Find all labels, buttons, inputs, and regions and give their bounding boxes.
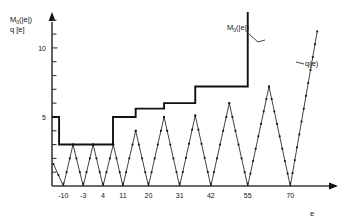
data-point-marker <box>194 115 196 117</box>
x-axis-arrow <box>329 183 338 190</box>
series-q-triangular-wave <box>53 31 317 186</box>
data-point-marker <box>257 135 259 137</box>
data-point-marker <box>307 82 309 84</box>
data-point-marker <box>116 157 118 159</box>
curve-label-m0: M0(|e|) <box>227 23 250 33</box>
x-tick-label: 55 <box>244 192 252 199</box>
data-point-marker <box>109 157 111 159</box>
data-point-marker <box>53 163 55 165</box>
data-point-marker <box>69 157 71 159</box>
data-point-marker <box>281 148 283 150</box>
data-point-marker <box>292 172 294 174</box>
data-point-marker <box>268 86 270 88</box>
data-point-marker <box>160 130 162 132</box>
data-point-marker <box>132 144 134 146</box>
x-tick-label: 42 <box>207 192 215 199</box>
data-point-marker <box>273 111 275 113</box>
data-point-marker <box>244 171 246 173</box>
data-point-marker <box>166 130 168 132</box>
data-point-marker <box>201 143 203 145</box>
data-point-marker <box>66 171 68 173</box>
x-tick-label: 70 <box>286 192 294 199</box>
data-point-marker <box>310 69 312 71</box>
chart-svg: 510-10-34112031425570M0(|e|)q [e]eM0(|e|… <box>0 0 344 224</box>
data-point-marker <box>314 43 316 45</box>
data-point-marker <box>231 116 233 118</box>
data-point-marker <box>276 123 278 125</box>
data-point-marker <box>182 171 184 173</box>
data-point-marker <box>284 160 286 162</box>
data-point-marker <box>176 171 178 173</box>
data-point-marker <box>296 146 298 148</box>
data-point-marker <box>151 171 153 173</box>
y-tick-label: 10 <box>38 45 46 52</box>
y-axis-label-line2: q [e] <box>10 25 25 34</box>
y-tick-label: 5 <box>42 114 46 121</box>
data-point-marker <box>222 130 224 132</box>
data-point-marker <box>228 102 230 104</box>
curve-label-m0-leader <box>249 34 265 42</box>
data-point-marker <box>57 174 59 176</box>
data-point-marker <box>238 144 240 146</box>
data-point-marker <box>99 171 101 173</box>
data-point-marker <box>141 157 143 159</box>
data-point-marker <box>144 171 146 173</box>
data-point-marker <box>204 157 206 159</box>
data-point-marker <box>135 130 137 132</box>
x-tick-label: 31 <box>176 192 184 199</box>
data-point-marker <box>128 157 130 159</box>
data-point-marker <box>225 116 227 118</box>
data-point-marker <box>298 134 300 136</box>
data-point-marker <box>72 144 74 146</box>
data-point-marker <box>125 171 127 173</box>
data-point-marker <box>255 148 257 150</box>
x-axis-label: e <box>310 209 314 218</box>
data-point-marker <box>89 157 91 159</box>
data-point-marker <box>163 116 165 118</box>
data-point-marker <box>312 56 314 58</box>
data-point-marker <box>213 171 215 173</box>
data-point-marker <box>188 143 190 145</box>
data-point-marker <box>249 173 251 175</box>
data-point-marker <box>235 130 237 132</box>
data-point-marker <box>271 98 273 100</box>
data-point-marker <box>287 173 289 175</box>
data-point-marker <box>216 157 218 159</box>
data-point-marker <box>92 144 94 146</box>
x-tick-label: -3 <box>80 192 86 199</box>
data-point-marker <box>316 30 318 32</box>
curve-label-q: q(e) <box>305 59 319 68</box>
data-point-marker <box>112 144 114 146</box>
figure-canvas: 510-10-34112031425570M0(|e|)q [e]eM0(|e|… <box>0 0 344 224</box>
curve-label-q-leader <box>296 62 304 64</box>
data-point-marker <box>241 157 243 159</box>
x-tick-label: 20 <box>145 192 153 199</box>
x-tick-label: 11 <box>119 192 126 199</box>
data-point-marker <box>197 129 199 131</box>
data-point-marker <box>157 144 159 146</box>
data-point-marker <box>138 144 140 146</box>
data-point-marker <box>252 160 254 162</box>
data-point-marker <box>191 129 193 131</box>
data-point-marker <box>119 171 121 173</box>
data-point-marker <box>106 171 108 173</box>
data-point-marker <box>301 121 303 123</box>
data-point-marker <box>75 157 77 159</box>
data-point-marker <box>185 157 187 159</box>
data-point-marker <box>265 98 267 100</box>
y-axis-arrow <box>49 12 56 21</box>
data-point-marker <box>303 108 305 110</box>
data-point-marker <box>173 157 175 159</box>
data-point-marker <box>207 171 209 173</box>
data-point-marker <box>263 111 265 113</box>
data-point-marker <box>86 171 88 173</box>
y-axis-label-line1: M0(|e|) <box>10 15 33 25</box>
series-m0-staircase <box>52 12 248 145</box>
x-tick-label: -10 <box>58 192 68 199</box>
data-point-marker <box>305 95 307 97</box>
data-point-marker <box>79 171 81 173</box>
x-tick-label: 4 <box>101 192 105 199</box>
data-point-marker <box>260 123 262 125</box>
data-point-marker <box>294 159 296 161</box>
data-point-marker <box>279 135 281 137</box>
